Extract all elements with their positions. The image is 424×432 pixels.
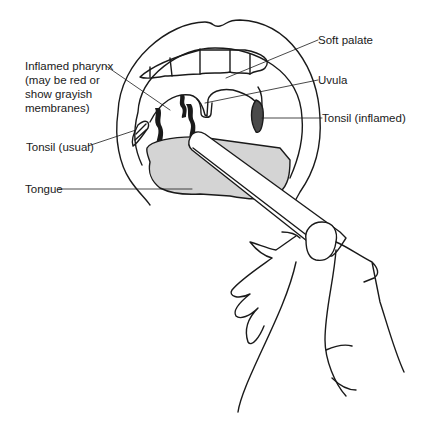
label-inflamed-pharynx-line2: (may be red or	[25, 73, 100, 88]
tonsil-inflamed	[252, 100, 264, 132]
label-tongue: Tongue	[25, 182, 63, 197]
label-inflamed-pharynx-line1: Inflamed pharynx	[25, 59, 113, 74]
label-uvula: Uvula	[318, 73, 347, 88]
label-inflamed-pharynx-line4: membranes)	[25, 101, 90, 116]
throat-diagram: Soft palate Uvula Tonsil (inflamed) Infl…	[0, 0, 424, 432]
hand	[231, 236, 404, 412]
label-tonsil-inflamed: Tonsil (inflamed)	[322, 111, 406, 126]
label-soft-palate: Soft palate	[318, 33, 373, 48]
label-inflamed-pharynx-line3: show grayish	[25, 87, 92, 102]
leader-pharynx	[106, 66, 170, 110]
upper-teeth	[140, 50, 267, 78]
leader-soft-palate	[226, 40, 318, 78]
thumb	[306, 222, 337, 260]
label-tonsil-usual: Tonsil (usual)	[26, 140, 94, 155]
leader-tonsil-usual	[88, 130, 136, 146]
